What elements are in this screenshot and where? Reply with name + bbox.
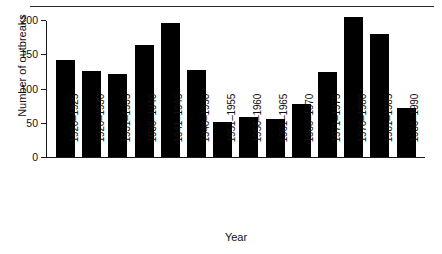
x-tick-label: 1946–1950 — [201, 94, 211, 160]
bar-chart-figure: 050100150200 Number of outbreaks 1920–19… — [0, 0, 442, 254]
x-tick-label: 1956–1960 — [253, 94, 263, 160]
x-tick-label: 1926–1930 — [96, 94, 106, 160]
x-axis-tick-labels: 1920–19251926–19301931–19351936–19401941… — [46, 160, 426, 228]
x-tick-label: 1986–1990 — [410, 94, 420, 160]
x-tick-label: 1976–1980 — [358, 94, 368, 160]
y-tick-label-wrap: 0 — [0, 152, 38, 163]
x-tick-label: 1981–1985 — [384, 94, 394, 160]
x-tick-label: 1951–1955 — [227, 94, 237, 160]
x-tick-label: 1961–1965 — [279, 94, 289, 160]
x-tick-label: 1931–1935 — [122, 94, 132, 160]
x-axis-title: Year — [46, 232, 426, 243]
x-tick-label: 1971–1975 — [332, 94, 342, 160]
x-tick-label: 1936–1940 — [148, 94, 158, 160]
x-tick-label: 1966–1970 — [305, 94, 315, 160]
x-tick-label: 1941–1945 — [174, 94, 184, 160]
y-tick-0 — [41, 157, 46, 158]
y-tick-label: 0 — [4, 152, 38, 163]
y-axis-title: Number of outbreaks — [17, 0, 28, 136]
top-divider-rule — [30, 6, 434, 7]
x-tick-label: 1920–1925 — [70, 94, 80, 160]
